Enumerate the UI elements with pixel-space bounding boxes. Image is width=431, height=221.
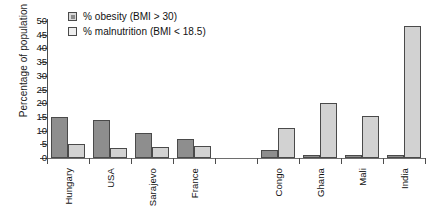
legend-item-malnutrition: % malnutrition (BMI < 18.5): [68, 25, 206, 38]
y-axis-ticks: 50454035302520151050: [0, 0, 47, 180]
x-axis-tick: [425, 158, 426, 164]
x-axis-tick: [131, 158, 132, 164]
bar-group: [173, 21, 215, 158]
x-axis-tick-label: USA: [105, 168, 116, 188]
x-axis-label-slot: USA: [89, 166, 131, 221]
bar-group: [89, 21, 131, 158]
x-axis-label-slot: Mali: [341, 166, 383, 221]
y-axis-tick-label: 0: [17, 153, 47, 162]
bar-obesity: [303, 155, 320, 158]
bar-group: [257, 21, 299, 158]
bar-group: [131, 21, 173, 158]
x-axis-tick-label: Hungary: [63, 168, 74, 205]
x-axis-tick-label: Ghana: [315, 168, 326, 197]
x-axis-tick-label: Congo: [273, 168, 284, 197]
bar-obesity: [135, 133, 152, 158]
x-axis-tick: [257, 158, 258, 164]
chart-legend: % obesity (BMI > 30) % malnutrition (BMI…: [68, 10, 206, 40]
bar-groups: [47, 21, 425, 158]
bar-group: [299, 21, 341, 158]
y-axis-tick-label: 25: [17, 85, 47, 94]
y-axis-tick-label: 30: [17, 71, 47, 80]
y-axis-tick-label: 15: [17, 112, 47, 121]
bar-malnutrition: [152, 147, 169, 158]
x-axis-label-slot: India: [383, 166, 425, 221]
obesity-swatch-icon: [68, 12, 77, 21]
y-axis-tick-label: 45: [17, 30, 47, 39]
bar-malnutrition: [362, 116, 379, 158]
bar-obesity: [93, 120, 110, 158]
x-axis-label-slot: Sarajevo: [131, 166, 173, 221]
bar-chart: Percentage of population 504540353025201…: [0, 0, 431, 221]
x-axis-label-slot: Congo: [257, 166, 299, 221]
bar-obesity: [345, 155, 362, 158]
x-axis-tick: [383, 158, 384, 164]
y-axis-tick-label: 5: [17, 139, 47, 148]
x-axis-label-slot: [215, 166, 257, 221]
x-axis-labels: HungaryUSASarajevoFranceCongoGhanaMaliIn…: [47, 166, 425, 221]
x-axis-tick: [215, 158, 216, 164]
x-axis-label-slot: Hungary: [47, 166, 89, 221]
x-axis-label-slot: Ghana: [299, 166, 341, 221]
bar-malnutrition: [194, 146, 211, 158]
legend-label: % obesity (BMI > 30): [83, 11, 177, 22]
bar-group: [383, 21, 425, 158]
bar-malnutrition: [68, 144, 85, 158]
bar-obesity: [51, 117, 68, 158]
x-axis-tick: [341, 158, 342, 164]
x-axis-tick-label: France: [189, 168, 200, 198]
x-axis-tick: [89, 158, 90, 164]
x-axis-tick-label: Mali: [357, 168, 368, 186]
bar-group: [341, 21, 383, 158]
bar-group-empty: [215, 21, 257, 158]
bar-obesity: [387, 155, 404, 158]
x-axis-line: [47, 158, 425, 159]
bar-obesity: [177, 139, 194, 158]
legend-item-obesity: % obesity (BMI > 30): [68, 10, 206, 23]
x-axis-tick: [299, 158, 300, 164]
y-axis-tick-label: 20: [17, 98, 47, 107]
malnutrition-swatch-icon: [68, 27, 77, 36]
bar-malnutrition: [320, 103, 337, 158]
y-axis-tick-label: 10: [17, 126, 47, 135]
x-axis-tick-label: Sarajevo: [147, 168, 158, 206]
y-axis-tick-label: 40: [17, 43, 47, 52]
x-axis-tick: [173, 158, 174, 164]
x-axis-tick-label: India: [399, 168, 410, 189]
bar-malnutrition: [110, 148, 127, 158]
x-axis-tick: [47, 158, 48, 164]
bar-group: [47, 21, 89, 158]
legend-label: % malnutrition (BMI < 18.5): [83, 26, 206, 37]
x-axis-label-slot: France: [173, 166, 215, 221]
bar-obesity: [261, 150, 278, 158]
y-axis-tick-label: 35: [17, 57, 47, 66]
bar-malnutrition: [404, 26, 421, 158]
y-axis-tick-label: 50: [17, 16, 47, 25]
bar-malnutrition: [278, 128, 295, 158]
